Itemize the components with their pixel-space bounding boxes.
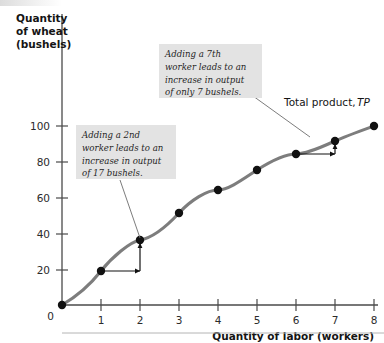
data-point-0 — [58, 301, 66, 309]
data-point-3 — [175, 209, 183, 217]
y-axis-title-line-3: (bushels) — [16, 38, 71, 50]
y-tick-label-80: 80 — [37, 156, 50, 168]
x-axis-title: Quantity of labor (workers) — [212, 330, 374, 342]
x-tick-label-2: 2 — [137, 314, 144, 326]
y-axis-title-line-2: of wheat — [16, 25, 68, 37]
chart-figure: 100 80 60 40 20 0 1 2 3 4 5 6 7 8 Quanti… — [0, 0, 384, 343]
annotation-seventh-worker-line-2: worker leads to an — [165, 62, 246, 72]
y-axis-title-line-1: Quantity — [16, 12, 68, 24]
annotation-second-worker-line-4: of 17 bushels. — [82, 168, 143, 178]
y-tick-label-20: 20 — [37, 264, 50, 276]
x-tick-label-6: 6 — [293, 314, 300, 326]
x-tick-label-3: 3 — [176, 314, 183, 326]
series-label-total-product: Total product, TP — [283, 96, 370, 108]
data-point-8 — [370, 122, 378, 130]
annotation-second-worker-leader — [120, 180, 140, 238]
series-label-text: Total product, — [283, 96, 356, 108]
y-tick-label-40: 40 — [37, 228, 50, 240]
annotation-second-worker-line-2: worker leads to an — [82, 143, 163, 153]
annotation-seventh-worker-line-3: increase in output — [165, 75, 245, 85]
data-point-4 — [214, 186, 222, 194]
annotation-seventh-worker: Adding a 7th worker leads to an increase… — [159, 44, 310, 137]
data-point-5 — [253, 166, 261, 174]
origin-label: 0 — [47, 310, 54, 322]
y-tick-label-60: 60 — [37, 192, 50, 204]
x-tick-label-5: 5 — [254, 314, 261, 326]
y-tick-label-100: 100 — [30, 120, 50, 132]
x-tick-label-7: 7 — [332, 314, 339, 326]
total-product-chart: 100 80 60 40 20 0 1 2 3 4 5 6 7 8 Quanti… — [0, 0, 384, 343]
x-tick-label-1: 1 — [98, 314, 105, 326]
annotation-seventh-worker-line-4: of only 7 bushels. — [165, 87, 241, 97]
annotation-second-worker-line-1: Adding a 2nd — [81, 130, 141, 140]
x-tick-label-4: 4 — [215, 314, 222, 326]
data-point-7 — [331, 137, 339, 145]
x-tick-label-8: 8 — [371, 314, 378, 326]
annotation-seventh-worker-line-1: Adding a 7th — [164, 49, 221, 59]
annotation-second-worker: Adding a 2nd worker leads to an increase… — [76, 125, 176, 238]
series-label-abbrev: TP — [357, 96, 370, 108]
step-arrow-worker-2 — [101, 243, 140, 271]
annotation-second-worker-line-3: increase in output — [82, 156, 162, 166]
